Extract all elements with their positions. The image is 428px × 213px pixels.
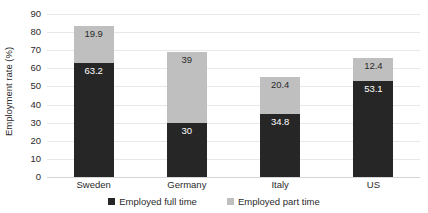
y-axis-tick-label: 70 <box>30 45 41 55</box>
bar-value-label: 19.9 <box>84 29 103 39</box>
bar-stack[interactable]: 53.112.4 <box>353 14 393 177</box>
legend-item[interactable]: Employed full time <box>108 196 197 207</box>
bar-segment[interactable]: 12.4 <box>353 58 393 80</box>
x-axis-tick-labels: SwedenGermanyItalyUS <box>47 178 420 194</box>
bar-segment[interactable]: 53.1 <box>353 81 393 177</box>
bar-segment[interactable]: 19.9 <box>74 26 114 62</box>
legend-item[interactable]: Employed part time <box>227 196 320 207</box>
y-axis-tick-label: 40 <box>30 100 41 110</box>
bar-segment[interactable]: 30 <box>167 123 207 177</box>
bar-stack[interactable]: 34.820.4 <box>260 14 300 177</box>
bar-segment[interactable]: 20.4 <box>260 77 300 114</box>
bar-segment[interactable]: 34.8 <box>260 114 300 177</box>
bar-value-label: 30 <box>182 126 193 136</box>
y-axis-tick-labels: 9080706050403020100 <box>18 14 44 177</box>
y-axis-tick-label: 20 <box>30 136 41 146</box>
x-axis-tick-label: Sweden <box>47 179 140 190</box>
bar-value-label: 20.4 <box>271 80 290 90</box>
y-axis-tick-label: 30 <box>30 118 41 128</box>
y-axis-title: Employment rate (%) <box>0 0 18 183</box>
x-axis-tick-label: Italy <box>234 179 327 190</box>
legend-label: Employed part time <box>238 196 320 207</box>
stacked-bar-chart: Employment rate (%) 9080706050403020100 … <box>0 0 428 213</box>
y-axis-tick-label: 50 <box>30 82 41 92</box>
y-axis-tick-label: 90 <box>30 9 41 19</box>
y-axis-tick-label: 80 <box>30 27 41 37</box>
bar-segment[interactable]: 39 <box>167 52 207 123</box>
x-axis-tick-label: US <box>327 179 420 190</box>
plot-area: 63.219.9303934.820.453.112.4 <box>47 14 420 177</box>
bar-value-label: 34.8 <box>271 117 290 127</box>
bar-segment[interactable]: 63.2 <box>74 63 114 177</box>
bar-value-label: 53.1 <box>364 84 383 94</box>
bars-layer: 63.219.9303934.820.453.112.4 <box>47 14 420 177</box>
y-axis-title-label: Employment rate (%) <box>4 47 15 136</box>
bar-stack[interactable]: 63.219.9 <box>74 14 114 177</box>
legend-label: Employed full time <box>119 196 197 207</box>
bar-value-label: 63.2 <box>84 66 103 76</box>
legend-swatch-icon <box>227 198 234 205</box>
bar-value-label: 39 <box>182 55 193 65</box>
x-axis-tick-label: Germany <box>140 179 233 190</box>
y-axis-tick-label: 10 <box>30 154 41 164</box>
legend-swatch-icon <box>108 198 115 205</box>
bar-stack[interactable]: 3039 <box>167 14 207 177</box>
bar-value-label: 12.4 <box>364 61 383 71</box>
chart-legend: Employed full timeEmployed part time <box>0 193 428 209</box>
y-axis-tick-label: 60 <box>30 64 41 74</box>
y-axis-tick-label: 0 <box>36 172 41 182</box>
